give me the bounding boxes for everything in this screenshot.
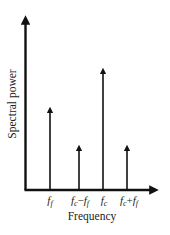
x-axis-title: Frequency [68, 210, 117, 223]
tick-label-fc-plus-ff: fc+ff [120, 194, 140, 208]
spectrum-diagram: ff fc−ff fc fc+ff Frequency Spectral pow… [0, 0, 170, 235]
tick-label-ff: ff [47, 194, 54, 208]
tick-label-fc-minus-ff: fc−ff [71, 194, 91, 208]
tick-label-fc: fc [101, 194, 108, 208]
y-axis-title: Spectral power [6, 69, 19, 138]
